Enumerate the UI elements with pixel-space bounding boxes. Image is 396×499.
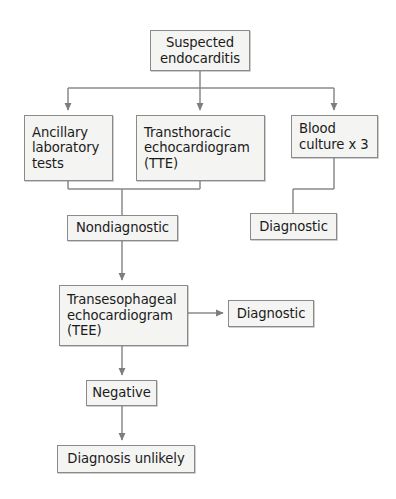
node-line: Diagnostic [237, 306, 306, 321]
node-line: Blood [299, 121, 336, 136]
connector-layer [0, 0, 396, 499]
node-line: Negative [92, 385, 150, 400]
node-line: Nondiagnostic [76, 220, 169, 235]
node-diagnostic-lower[interactable]: Diagnostic [228, 300, 314, 327]
node-line: (TTE) [144, 156, 178, 171]
node-transesophageal-echocardiogram[interactable]: Transesophageal echocardiogram (TEE) [59, 285, 188, 346]
node-line: Ancillary [32, 125, 88, 140]
node-line: Suspected [166, 35, 234, 50]
node-diagnosis-unlikely[interactable]: Diagnosis unlikely [57, 445, 195, 473]
node-line: tests [32, 156, 64, 171]
node-line: Diagnosis unlikely [67, 451, 184, 466]
node-nondiagnostic[interactable]: Nondiagnostic [67, 215, 178, 241]
node-line: Transesophageal [67, 292, 176, 307]
node-ancillary-laboratory-tests[interactable]: Ancillary laboratory tests [24, 115, 113, 181]
node-line: culture x 3 [299, 137, 369, 152]
node-diagnostic-upper[interactable]: Diagnostic [250, 213, 337, 240]
node-line: laboratory [32, 140, 99, 155]
node-line: echocardiogram [144, 140, 250, 155]
node-suspected-endocarditis[interactable]: Suspected endocarditis [150, 30, 250, 71]
node-line: echocardiogram [67, 308, 173, 323]
node-negative[interactable]: Negative [86, 380, 157, 406]
node-line: (TEE) [67, 323, 102, 338]
node-line: endocarditis [160, 51, 240, 66]
node-line: Transthoracic [144, 125, 231, 140]
node-blood-culture[interactable]: Blood culture x 3 [291, 115, 378, 158]
node-transthoracic-echocardiogram[interactable]: Transthoracic echocardiogram (TTE) [136, 115, 265, 181]
node-line: Diagnostic [259, 219, 328, 234]
flowchart-canvas: Suspected endocarditis Ancillary laborat… [0, 0, 396, 499]
